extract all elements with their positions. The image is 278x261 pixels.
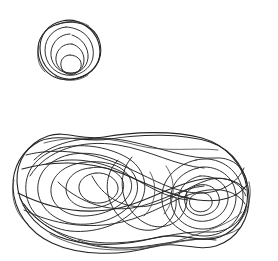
artwork-canvas: Hand-drawn pen scribble study ink pen on… [0,0,278,261]
scribble-drawing [0,0,278,261]
